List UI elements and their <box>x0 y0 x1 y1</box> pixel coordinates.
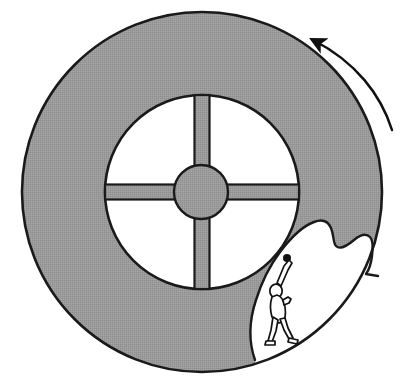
figure-front-foot <box>288 338 298 344</box>
hub-circle <box>174 165 228 219</box>
figure-back-foot <box>265 341 275 345</box>
wheel-diagram-svg: excavated cavity loose object person (sc… <box>0 0 416 387</box>
figure-root: excavated cavity loose object person (sc… <box>0 0 416 387</box>
